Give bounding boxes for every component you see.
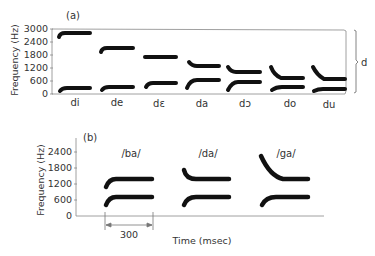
syllable-label: de bbox=[111, 97, 124, 108]
ytick: 600 bbox=[30, 75, 48, 86]
panel-a-yticks: 3000 2400 1800 1200 600 0 bbox=[24, 23, 48, 99]
panel-a-label: (a) bbox=[66, 10, 80, 21]
spectrogram-figure: (a) Frequency (Hz) 3000 2400 1800 1200 6… bbox=[0, 0, 375, 256]
syllable-label: /ga/ bbox=[276, 148, 296, 159]
duration-label: 300 bbox=[120, 229, 138, 240]
bracket-label: d bbox=[361, 57, 367, 68]
ytick: 1200 bbox=[48, 178, 72, 189]
syllable-label: du bbox=[323, 99, 336, 110]
panel-b-tickmarks bbox=[74, 152, 77, 200]
syllable-label: /da/ bbox=[198, 148, 218, 159]
syllable-label: dɔ bbox=[239, 98, 251, 109]
panel-b-ylabel: Frequency (Hz) bbox=[35, 144, 46, 216]
syllable-label: di bbox=[70, 97, 79, 108]
panel-a-axes bbox=[52, 29, 346, 94]
ytick: 0 bbox=[66, 210, 72, 221]
ytick: 1800 bbox=[48, 162, 72, 173]
ytick: 3000 bbox=[24, 23, 48, 34]
panel-b-syllables: /ba/ /da/ /ga/ bbox=[121, 148, 296, 159]
syllable-label: dɛ bbox=[153, 98, 165, 109]
syllable-label: da bbox=[196, 98, 208, 109]
panel-a-xlabels: di de dɛ da dɔ do du bbox=[70, 97, 335, 110]
bracket-icon bbox=[354, 30, 358, 93]
syllable-label: /ba/ bbox=[121, 148, 141, 159]
panel-a-ylabel: Frequency (Hz) bbox=[9, 24, 20, 96]
duration-marker bbox=[105, 212, 153, 230]
syllable-label: do bbox=[284, 98, 296, 109]
ytick: 2400 bbox=[48, 146, 72, 157]
ytick: 0 bbox=[42, 88, 48, 99]
ytick: 1800 bbox=[24, 49, 48, 60]
panel-b-yticks: 2400 1800 1200 600 0 bbox=[48, 146, 72, 221]
panel-b-formants bbox=[106, 156, 308, 205]
ytick: 600 bbox=[54, 194, 72, 205]
ytick: 2400 bbox=[24, 36, 48, 47]
panel-b-xlabel: Time (msec) bbox=[172, 235, 232, 246]
panel-a-tickmarks bbox=[50, 29, 53, 94]
panel-a-formants bbox=[59, 33, 345, 91]
panel-b-label: (b) bbox=[83, 132, 97, 143]
ytick: 1200 bbox=[24, 62, 48, 73]
